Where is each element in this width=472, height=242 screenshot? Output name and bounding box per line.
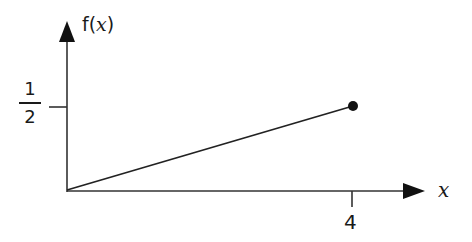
endpoint-dot [348,101,358,111]
y-axis-label-var: x [96,13,107,35]
fraction-denominator: 2 [18,107,42,127]
fraction-numerator: 1 [18,79,42,99]
y-axis-label: f(x) [82,13,114,35]
y-axis-arrow-icon [59,21,75,42]
y-axis-label-prefix: f( [82,13,96,35]
x-tick-label-4: 4 [344,210,357,234]
fraction-bar [19,102,41,104]
y-axis-label-close: ) [107,13,114,35]
x-axis-label: x [438,178,449,202]
y-tick-label-half: 1 2 [18,79,42,127]
function-line [67,106,353,190]
x-axis-arrow-icon [403,183,425,199]
graph-canvas [0,0,472,242]
